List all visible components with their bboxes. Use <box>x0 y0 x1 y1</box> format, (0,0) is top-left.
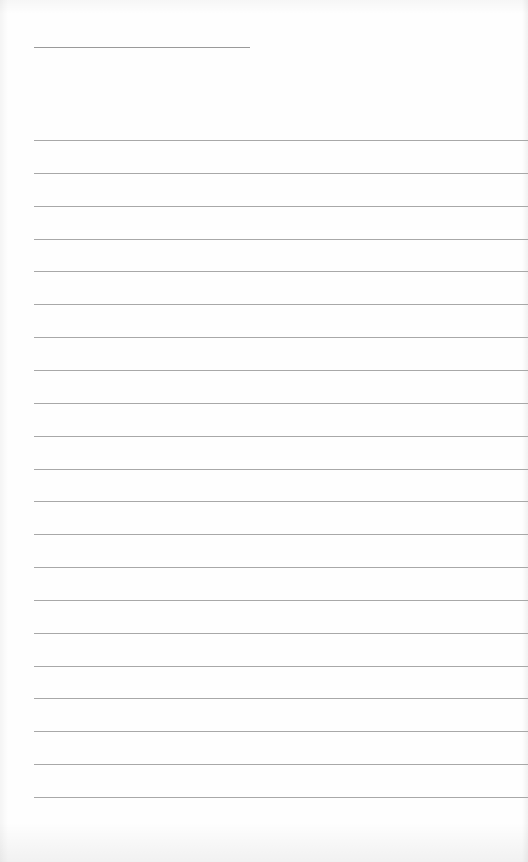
ruled-line <box>34 567 528 568</box>
lined-paper-sheet <box>0 0 528 862</box>
ruled-line <box>34 666 528 667</box>
ruled-line <box>34 370 528 371</box>
ruled-line <box>34 698 528 699</box>
ruled-line <box>34 764 528 765</box>
ruled-line <box>34 797 528 798</box>
ruled-line <box>34 633 528 634</box>
ruled-line <box>34 271 528 272</box>
ruled-line <box>34 337 528 338</box>
ruled-line <box>34 403 528 404</box>
ruled-line <box>34 731 528 732</box>
ruled-line <box>34 534 528 535</box>
ruled-line <box>34 206 528 207</box>
ruled-line <box>34 600 528 601</box>
ruled-line <box>34 304 528 305</box>
ruled-line <box>34 140 528 141</box>
ruled-line <box>34 173 528 174</box>
ruled-line <box>34 469 528 470</box>
title-line <box>34 47 250 48</box>
ruled-line <box>34 436 528 437</box>
ruled-line <box>34 501 528 502</box>
ruled-line <box>34 239 528 240</box>
